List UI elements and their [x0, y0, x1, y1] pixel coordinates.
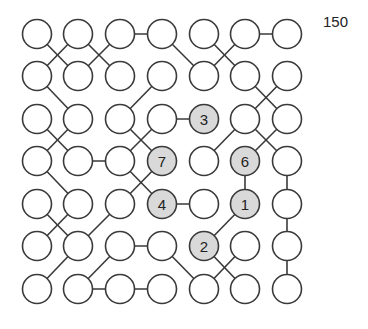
- puzzle-board: 376412: [0, 0, 368, 329]
- empty-cell[interactable]: [23, 147, 52, 176]
- cell-number: 7: [158, 153, 166, 170]
- empty-cell[interactable]: [64, 147, 93, 176]
- cell-circle[interactable]: [64, 62, 93, 91]
- cell-circle[interactable]: [231, 62, 260, 91]
- cell-number: 4: [158, 196, 166, 213]
- cell-circle[interactable]: [273, 275, 302, 304]
- empty-cell[interactable]: [106, 275, 135, 304]
- cell-circle[interactable]: [148, 20, 177, 49]
- empty-cell[interactable]: [106, 62, 135, 91]
- empty-cell[interactable]: [190, 147, 219, 176]
- cell-circle[interactable]: [231, 105, 260, 134]
- numbered-cell[interactable]: 4: [148, 190, 177, 219]
- cell-number: 6: [241, 153, 249, 170]
- cell-circle[interactable]: [273, 147, 302, 176]
- empty-cell[interactable]: [64, 62, 93, 91]
- empty-cell[interactable]: [231, 232, 260, 261]
- cell-circle[interactable]: [190, 62, 219, 91]
- numbered-cell[interactable]: 6: [231, 147, 260, 176]
- cell-circle[interactable]: [106, 147, 135, 176]
- cell-circle[interactable]: [64, 190, 93, 219]
- empty-cell[interactable]: [190, 62, 219, 91]
- cell-circle[interactable]: [148, 62, 177, 91]
- cell-circle[interactable]: [148, 232, 177, 261]
- cell-circle[interactable]: [106, 190, 135, 219]
- empty-cell[interactable]: [106, 232, 135, 261]
- numbered-cell[interactable]: 3: [190, 105, 219, 134]
- empty-cell[interactable]: [106, 20, 135, 49]
- cell-circle[interactable]: [148, 275, 177, 304]
- cell-circle[interactable]: [106, 105, 135, 134]
- cell-circle[interactable]: [23, 147, 52, 176]
- empty-cell[interactable]: [148, 105, 177, 134]
- empty-cell[interactable]: [231, 20, 260, 49]
- cell-circle[interactable]: [106, 275, 135, 304]
- empty-cell[interactable]: [106, 105, 135, 134]
- empty-cell[interactable]: [273, 20, 302, 49]
- empty-cell[interactable]: [64, 190, 93, 219]
- empty-cell[interactable]: [23, 275, 52, 304]
- empty-cell[interactable]: [231, 275, 260, 304]
- numbered-cell[interactable]: 1: [231, 190, 260, 219]
- empty-cell[interactable]: [190, 275, 219, 304]
- empty-cell[interactable]: [23, 62, 52, 91]
- cell-circle[interactable]: [64, 232, 93, 261]
- cell-circle[interactable]: [190, 275, 219, 304]
- cell-circle[interactable]: [106, 232, 135, 261]
- empty-cell[interactable]: [273, 62, 302, 91]
- empty-cell[interactable]: [148, 20, 177, 49]
- cell-circle[interactable]: [273, 20, 302, 49]
- score-label: 150: [323, 13, 348, 30]
- cell-circle[interactable]: [64, 20, 93, 49]
- empty-cell[interactable]: [273, 105, 302, 134]
- cell-circle[interactable]: [23, 62, 52, 91]
- cell-circle[interactable]: [231, 275, 260, 304]
- empty-cell[interactable]: [106, 190, 135, 219]
- empty-cell[interactable]: [148, 62, 177, 91]
- empty-cell[interactable]: [148, 232, 177, 261]
- cell-circle[interactable]: [148, 105, 177, 134]
- empty-cell[interactable]: [273, 232, 302, 261]
- cell-circle[interactable]: [23, 190, 52, 219]
- empty-cell[interactable]: [23, 232, 52, 261]
- cell-circle[interactable]: [64, 275, 93, 304]
- cell-circle[interactable]: [273, 190, 302, 219]
- cell-circle[interactable]: [273, 62, 302, 91]
- cell-circle[interactable]: [231, 20, 260, 49]
- cell-circle[interactable]: [23, 20, 52, 49]
- cell-circle[interactable]: [106, 20, 135, 49]
- empty-cell[interactable]: [23, 105, 52, 134]
- cell-circle[interactable]: [190, 20, 219, 49]
- empty-cell[interactable]: [64, 275, 93, 304]
- cell-circle[interactable]: [273, 105, 302, 134]
- empty-cell[interactable]: [64, 20, 93, 49]
- numbered-cell[interactable]: 7: [148, 147, 177, 176]
- cell-circle[interactable]: [190, 190, 219, 219]
- empty-cell[interactable]: [64, 232, 93, 261]
- empty-cell[interactable]: [231, 62, 260, 91]
- cell-circle[interactable]: [64, 147, 93, 176]
- cell-circle[interactable]: [231, 232, 260, 261]
- empty-cell[interactable]: [23, 190, 52, 219]
- cell-number: 3: [200, 111, 208, 128]
- cell-circle[interactable]: [23, 105, 52, 134]
- cell-circle[interactable]: [273, 232, 302, 261]
- empty-cell[interactable]: [23, 20, 52, 49]
- empty-cell[interactable]: [273, 190, 302, 219]
- cell-circle[interactable]: [64, 105, 93, 134]
- cell-number: 1: [241, 196, 249, 213]
- empty-cell[interactable]: [148, 275, 177, 304]
- cell-circle[interactable]: [106, 62, 135, 91]
- cell-number: 2: [200, 238, 208, 255]
- empty-cell[interactable]: [190, 190, 219, 219]
- empty-cell[interactable]: [273, 275, 302, 304]
- cell-circle[interactable]: [23, 275, 52, 304]
- empty-cell[interactable]: [231, 105, 260, 134]
- empty-cell[interactable]: [64, 105, 93, 134]
- numbered-cell[interactable]: 2: [190, 232, 219, 261]
- empty-cell[interactable]: [273, 147, 302, 176]
- cell-circle[interactable]: [190, 147, 219, 176]
- empty-cell[interactable]: [106, 147, 135, 176]
- cell-circle[interactable]: [23, 232, 52, 261]
- empty-cell[interactable]: [190, 20, 219, 49]
